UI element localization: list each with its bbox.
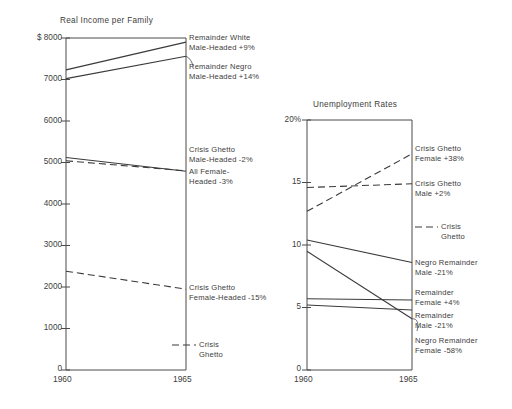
label-remainder-female-line2: Female +4% bbox=[415, 298, 460, 308]
label-crisis-ghetto-male-line2: Male-Headed -2% bbox=[189, 155, 253, 165]
left-xtick-1960: 1960 bbox=[53, 374, 72, 384]
label-crisis-ghetto-female-line1: Crisis Ghetto bbox=[189, 283, 235, 293]
right-ytick-20: 20% bbox=[265, 115, 301, 124]
series-remainder-female bbox=[307, 299, 412, 300]
left-ytick-0: 0 bbox=[8, 364, 62, 373]
right-y-ticks bbox=[302, 120, 311, 370]
left-chart-axes bbox=[61, 38, 186, 370]
label-remainder-female-line1: Remainder bbox=[415, 288, 454, 298]
series-negro-remainder-male bbox=[307, 240, 412, 263]
label-crisis-ghetto-male-line2: Male +2% bbox=[415, 189, 450, 199]
figure-root: Real Income per Family $ 8000 7000 6000 … bbox=[0, 0, 512, 409]
label-crisis-ghetto-female-line2: Female-Headed -15% bbox=[189, 293, 267, 303]
label-all-female-headed-line1: All Female- bbox=[189, 167, 229, 177]
label-negro-remainder-male-line2: Male -21% bbox=[415, 268, 453, 278]
series-crisis-ghetto-male bbox=[307, 184, 412, 188]
right-ytick-15: 15 bbox=[265, 177, 301, 186]
left-ytick-3000: 3000 bbox=[8, 240, 62, 249]
right-chart-axes bbox=[302, 120, 412, 370]
series-crisis-ghetto-female bbox=[307, 154, 412, 212]
label-remainder-male-line2: Male -21% bbox=[415, 321, 453, 331]
right-ytick-0: 0 bbox=[265, 364, 301, 373]
label-crisis-ghetto-female-line2: Female +38% bbox=[415, 154, 464, 164]
label-remainder-negro-male-line2: Male-Headed +14% bbox=[189, 72, 259, 82]
label-remainder-negro-male-line1: Remainder Negro bbox=[189, 62, 252, 72]
right-xtick-1960: 1960 bbox=[294, 374, 313, 384]
series-all-female-headed bbox=[66, 161, 186, 171]
series-remainder-male bbox=[307, 305, 412, 310]
label-remainder-male-line1: Remainder bbox=[415, 311, 454, 321]
left-chart-title: Real Income per Family bbox=[60, 16, 153, 25]
series-remainder-negro-male-headed bbox=[66, 56, 186, 78]
left-legend-label-line1: Crisis bbox=[199, 340, 219, 350]
left-legend-label-line2: Ghetto bbox=[199, 350, 223, 360]
series-crisis-ghetto-female-headed bbox=[66, 271, 186, 289]
series-negro-remainder-female bbox=[307, 251, 412, 318]
left-ytick-4000: 4000 bbox=[8, 199, 62, 208]
series-crisis-ghetto-male-headed bbox=[66, 158, 186, 172]
right-chart-series bbox=[307, 154, 412, 319]
label-remainder-white-male-line1: Remainder White bbox=[189, 33, 250, 43]
left-xtick-1965: 1965 bbox=[173, 374, 192, 384]
left-ytick-7000: 7000 bbox=[8, 74, 62, 83]
right-chart-title: Unemployment Rates bbox=[313, 100, 397, 109]
left-ytick-8000: $ 8000 bbox=[8, 33, 62, 42]
label-negro-remainder-female-line2: Female -58% bbox=[415, 346, 462, 356]
label-negro-remainder-female-line1: Negro Remainder bbox=[415, 336, 478, 346]
label-all-female-headed-line2: Headed -3% bbox=[189, 177, 233, 187]
left-y-ticks bbox=[61, 38, 70, 370]
right-ytick-5: 5 bbox=[265, 302, 301, 311]
right-legend-label-line2: Ghetto bbox=[441, 232, 465, 242]
left-ytick-1000: 1000 bbox=[8, 323, 62, 332]
left-ytick-5000: 5000 bbox=[8, 157, 62, 166]
right-legend-label-line1: Crisis bbox=[441, 222, 461, 232]
left-ytick-2000: 2000 bbox=[8, 282, 62, 291]
right-ytick-10: 10 bbox=[265, 240, 301, 249]
left-ytick-6000: 6000 bbox=[8, 116, 62, 125]
label-remainder-white-male-line2: Male-Headed +9% bbox=[189, 43, 255, 53]
left-chart-series bbox=[66, 42, 186, 289]
series-remainder-white-male-headed bbox=[66, 42, 186, 70]
label-crisis-ghetto-female-line1: Crisis Ghetto bbox=[415, 144, 461, 154]
right-xtick-1965: 1965 bbox=[399, 374, 418, 384]
label-crisis-ghetto-male-line1: Crisis Ghetto bbox=[415, 179, 461, 189]
label-negro-remainder-male-line1: Negro Remainder bbox=[415, 258, 478, 268]
label-crisis-ghetto-male-line1: Crisis Ghetto bbox=[189, 145, 235, 155]
